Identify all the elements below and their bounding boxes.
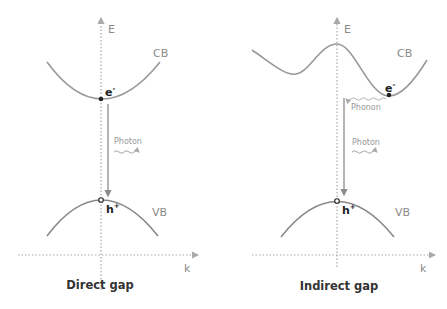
photon-label: Photon: [352, 138, 380, 147]
panel-title: Direct gap: [66, 278, 134, 292]
conduction-band-label: CB: [153, 47, 168, 60]
conduction-band-label: CB: [397, 47, 412, 60]
hole-circle: [99, 198, 104, 203]
valence-band-curve: [47, 200, 158, 236]
momentum-axis-label: k: [420, 262, 427, 275]
band-diagram: E k CB e- Photon VB h+ Direct gap E k CB: [0, 0, 447, 309]
valence-band-label: VB: [395, 206, 410, 219]
electron-dot: [99, 97, 104, 102]
energy-axis-label: E: [108, 23, 115, 36]
indirect-gap-panel: E k CB e- Phonon Photon VB h+ Indirect g…: [252, 18, 435, 293]
energy-axis-label: E: [344, 23, 351, 36]
photon-label: Photon: [114, 137, 142, 146]
hole-circle: [335, 199, 340, 204]
hole-label: h+: [106, 202, 120, 216]
phonon-label: Phonon: [351, 103, 381, 112]
panel-title: Indirect gap: [300, 279, 379, 293]
photon-wave-icon: [114, 151, 139, 154]
valence-band-label: VB: [152, 206, 167, 219]
phonon-wave-arrow: [346, 98, 386, 101]
hole-label: h+: [342, 203, 356, 217]
photon-wave-icon: [352, 151, 377, 154]
momentum-axis-label: k: [184, 262, 191, 275]
electron-label: e-: [385, 81, 395, 95]
direct-gap-panel: E k CB e- Photon VB h+ Direct gap: [18, 18, 198, 292]
conduction-band-curve: [47, 62, 160, 99]
